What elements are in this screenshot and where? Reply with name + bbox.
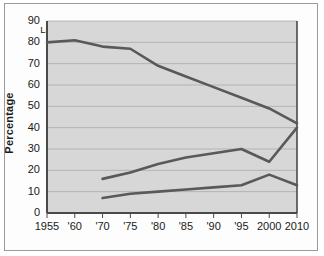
line-chart-plot — [0, 0, 324, 256]
